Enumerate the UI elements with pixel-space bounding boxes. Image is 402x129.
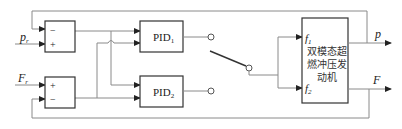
summer2-top-sign: + <box>50 80 56 91</box>
switch-contact-2 <box>208 88 214 94</box>
f1-line <box>278 37 302 75</box>
F-ref-label: Fr <box>17 71 28 86</box>
engine-title-line1: 双模态超 <box>307 45 347 57</box>
switch-contact-1 <box>208 34 214 40</box>
switch-arm[interactable] <box>210 51 246 66</box>
error1-branch <box>111 31 140 85</box>
engine-title-line2: 燃冲压发 <box>307 58 347 70</box>
summer1-bottom-sign: + <box>50 39 56 50</box>
switch-pivot <box>246 65 252 71</box>
error2-branch <box>97 41 140 99</box>
F-output-label: F <box>372 73 381 87</box>
summer1-top-sign: − <box>50 25 56 36</box>
p-ref-label: pr <box>19 30 29 45</box>
control-block-diagram: − + + − pr Fr PID1 PID2 f1 f2 双模态超 燃冲压发 … <box>0 0 402 129</box>
f2-line <box>278 75 302 88</box>
summer2-bottom-sign: − <box>50 94 56 105</box>
engine-title-line3: 动机 <box>317 71 337 83</box>
switch-output-line <box>249 71 278 75</box>
p-output-label: p <box>374 27 381 41</box>
